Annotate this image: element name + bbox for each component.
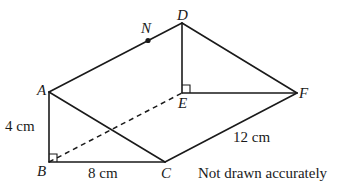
point-label-n: N — [140, 20, 152, 36]
edge-ad — [49, 23, 182, 92]
right-angle-marker-e — [182, 85, 190, 93]
vertex-label-e: E — [177, 95, 187, 111]
point-n-marker — [145, 38, 150, 43]
vertex-label-c: C — [161, 165, 172, 181]
measurement-cf: 12 cm — [233, 129, 270, 145]
prism-diagram: A B C D E F N 4 cm 8 cm 12 cm Not drawn … — [0, 0, 344, 195]
vertex-label-f: F — [298, 85, 309, 101]
not-drawn-accurately-note: Not drawn accurately — [198, 165, 328, 181]
edge-ac — [49, 92, 165, 162]
measurement-bc: 8 cm — [88, 165, 118, 181]
edge-df — [182, 23, 297, 93]
measurement-ab: 4 cm — [5, 118, 35, 134]
vertex-label-a: A — [36, 82, 47, 98]
vertex-label-b: B — [37, 163, 46, 179]
vertex-label-d: D — [176, 7, 188, 23]
